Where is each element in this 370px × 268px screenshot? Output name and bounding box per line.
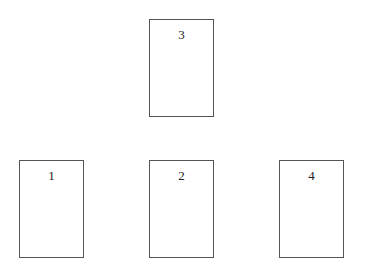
box-4-label: 4 (280, 168, 343, 184)
box-4: 4 (279, 160, 344, 258)
box-1: 1 (19, 160, 84, 258)
box-1-label: 1 (20, 168, 83, 184)
box-2-label: 2 (150, 168, 213, 184)
box-3: 3 (149, 19, 214, 117)
box-2: 2 (149, 160, 214, 258)
box-3-label: 3 (150, 27, 213, 43)
